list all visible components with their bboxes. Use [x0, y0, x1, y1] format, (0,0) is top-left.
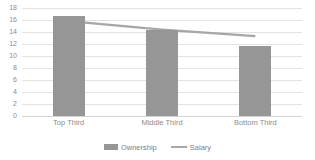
y-axis-tick-label: 4	[13, 88, 17, 96]
y-axis-tick-label: 18	[9, 4, 17, 12]
plot-area	[22, 8, 302, 116]
x-axis: Top ThirdMiddle ThirdBottom Third	[22, 118, 302, 132]
y-axis-tick-label: 12	[9, 40, 17, 48]
y-axis-tick-label: 2	[13, 100, 17, 108]
chart-container: 024681012141618 Top ThirdMiddle ThirdBot…	[0, 0, 315, 160]
y-axis-tick-label: 10	[9, 52, 17, 60]
chart-legend: OwnershipSalary	[0, 140, 315, 154]
y-axis-tick-label: 8	[13, 64, 17, 72]
x-axis-tick-label: Bottom Third	[234, 118, 277, 128]
legend-label: Ownership	[121, 143, 157, 152]
legend-item[interactable]: Ownership	[104, 143, 157, 152]
bar	[53, 16, 85, 116]
y-axis-tick-label: 16	[9, 16, 17, 24]
axis-baseline	[22, 116, 302, 117]
legend-item[interactable]: Salary	[171, 143, 211, 152]
line-swatch-icon	[171, 146, 187, 148]
y-axis-tick-label: 6	[13, 76, 17, 84]
y-axis-tick-label: 14	[9, 28, 17, 36]
y-axis-tick-label: 0	[13, 112, 17, 120]
bar	[239, 46, 271, 116]
bar	[146, 30, 178, 116]
x-axis-tick-label: Middle Third	[141, 118, 182, 128]
bar-swatch-icon	[104, 144, 118, 150]
legend-label: Salary	[190, 143, 211, 152]
y-axis: 024681012141618	[0, 0, 20, 124]
x-axis-tick-label: Top Third	[53, 118, 84, 128]
